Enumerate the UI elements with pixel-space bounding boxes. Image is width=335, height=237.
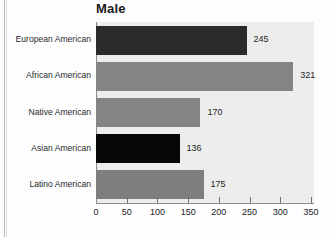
- category-label: African American: [0, 70, 91, 80]
- bar-value-label: 245: [254, 34, 269, 44]
- x-axis-tick: [157, 197, 158, 203]
- chart-figure: Male European AmericanAfrican AmericanNa…: [0, 0, 335, 237]
- bar-value-label: 175: [211, 179, 226, 189]
- x-axis-tick: [127, 197, 128, 203]
- category-label: Asian American: [0, 143, 91, 153]
- x-axis-tick: [188, 197, 189, 203]
- bar: [96, 98, 200, 127]
- bar: [96, 62, 293, 91]
- category-label: European American: [0, 34, 91, 44]
- bar-value-label: 321: [300, 70, 315, 80]
- x-axis-tick-label: 100: [150, 207, 165, 217]
- x-axis-tick: [311, 197, 312, 203]
- category-label: Latino American: [0, 179, 91, 189]
- bar: [96, 134, 180, 163]
- chart-title: Male: [96, 1, 126, 17]
- x-axis-tick: [280, 197, 281, 203]
- x-axis-tick-label: 250: [242, 207, 257, 217]
- x-axis-tick: [219, 197, 220, 203]
- x-axis-tick: [250, 197, 251, 203]
- x-axis-tick-label: 350: [303, 207, 318, 217]
- bar-value-label: 170: [207, 107, 222, 117]
- x-axis-tick-label: 0: [93, 207, 98, 217]
- bar: [96, 26, 247, 55]
- bar-value-label: 136: [187, 143, 202, 153]
- category-label: Native American: [0, 107, 91, 117]
- x-axis-line: [96, 203, 314, 204]
- bar: [96, 170, 204, 199]
- x-axis-tick-label: 300: [273, 207, 288, 217]
- x-axis-tick-label: 200: [211, 207, 226, 217]
- x-axis-tick-label: 150: [181, 207, 196, 217]
- x-axis-tick-label: 50: [122, 207, 132, 217]
